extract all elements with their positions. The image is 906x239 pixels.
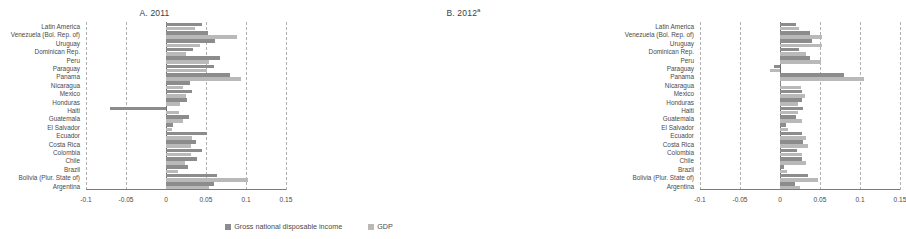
panel-a-title-text: A. 2011 bbox=[139, 8, 169, 18]
bar-gndi bbox=[166, 48, 193, 52]
bar-gndi bbox=[166, 132, 207, 136]
bar-gndi bbox=[780, 115, 796, 119]
x-tick-label: 0 bbox=[164, 196, 168, 203]
bar-gndi bbox=[166, 140, 196, 144]
panel-a-title: A. 2011 bbox=[0, 7, 309, 18]
bar-gndi bbox=[780, 56, 810, 60]
legend-swatch-gndi bbox=[225, 224, 231, 230]
panel-a-gridline-0p15 bbox=[286, 22, 287, 190]
bar-gndi bbox=[166, 31, 208, 35]
x-tick-label: -0.1 bbox=[694, 196, 705, 203]
legend-label-gndi: Gross national disposable income bbox=[234, 222, 342, 231]
bar-gndi bbox=[166, 123, 173, 127]
bar-gndi bbox=[166, 81, 190, 85]
bar-gndi bbox=[780, 39, 812, 43]
panel-a-bars bbox=[86, 22, 286, 190]
bar-gndi bbox=[166, 157, 197, 161]
bar-gndi bbox=[780, 140, 803, 144]
bar-group bbox=[86, 182, 286, 193]
bar-gndi bbox=[166, 73, 230, 77]
bar-gndi bbox=[780, 107, 803, 111]
x-tick-label: -0.05 bbox=[732, 196, 747, 203]
x-tick-label: 0 bbox=[778, 196, 782, 203]
x-tick-label: 0.1 bbox=[855, 196, 864, 203]
panel-b-baseline bbox=[700, 189, 900, 190]
panel-b-bars bbox=[700, 22, 900, 190]
bar-gndi bbox=[166, 56, 220, 60]
bar-gndi bbox=[774, 65, 780, 69]
panel-b-x-axis-ticks: -0.1-0.0500.050.10.15 bbox=[700, 196, 900, 208]
legend-swatch-gdp bbox=[368, 224, 374, 230]
bar-gndi bbox=[780, 157, 802, 161]
bar-gndi bbox=[166, 23, 202, 27]
bar-gndi bbox=[166, 98, 187, 102]
panel-a-baseline bbox=[86, 189, 286, 190]
bar-group bbox=[700, 182, 900, 193]
bar-gndi bbox=[166, 115, 189, 119]
bar-gndi bbox=[780, 31, 810, 35]
x-tick-label: -0.05 bbox=[118, 196, 133, 203]
bar-gndi bbox=[780, 73, 844, 77]
bar-gndi bbox=[166, 149, 202, 153]
x-tick-label: 0.05 bbox=[200, 196, 213, 203]
x-tick-label: -0.1 bbox=[80, 196, 91, 203]
bar-gndi bbox=[780, 81, 781, 85]
bar-gndi bbox=[166, 65, 214, 69]
chart-legend: Gross national disposable income GDP bbox=[0, 222, 618, 231]
bar-gndi bbox=[110, 107, 166, 111]
bar-gndi bbox=[166, 174, 217, 178]
bar-gndi bbox=[780, 149, 797, 153]
bar-gndi bbox=[780, 123, 786, 127]
legend-label-gdp: GDP bbox=[377, 222, 393, 231]
panel-b: B. 2012a Latin AmericaVenezuela (Bol. Re… bbox=[309, 0, 618, 218]
bar-gndi bbox=[166, 182, 214, 186]
panel-b-plot-area bbox=[700, 22, 900, 190]
panel-b-title-text: B. 2012 bbox=[446, 8, 477, 18]
panel-b-title-superscript: a bbox=[477, 7, 481, 13]
bar-gndi bbox=[780, 90, 802, 94]
panel-b-category-labels: Latin AmericaVenezuela (Bol. Rep. of)Uru… bbox=[614, 22, 698, 190]
panel-a-plot-area bbox=[86, 22, 286, 190]
panel-b-title: B. 2012a bbox=[309, 7, 618, 18]
panel-b-gridline-0p15 bbox=[900, 22, 901, 190]
bar-gndi bbox=[166, 165, 188, 169]
panel-a: A. 2011 Latin AmericaVenezuela (Bol. Rep… bbox=[0, 0, 309, 218]
x-tick-label: 0.15 bbox=[280, 196, 293, 203]
bar-gndi bbox=[780, 98, 802, 102]
bar-gndi bbox=[780, 165, 784, 169]
bar-gndi bbox=[166, 39, 215, 43]
bar-gndi bbox=[780, 23, 796, 27]
bar-gndi bbox=[780, 182, 795, 186]
bar-gndi bbox=[780, 174, 808, 178]
panel-a-x-axis-ticks: -0.1-0.0500.050.10.15 bbox=[86, 196, 286, 208]
bar-gndi bbox=[780, 132, 802, 136]
bar-gndi bbox=[780, 48, 799, 52]
panel-a-category-labels: Latin AmericaVenezuela (Bol. Rep. of)Uru… bbox=[0, 22, 84, 190]
bar-gndi bbox=[166, 90, 192, 94]
category-label: Argentina bbox=[53, 182, 80, 193]
x-tick-label: 0.05 bbox=[814, 196, 827, 203]
legend-item-gdp: GDP bbox=[368, 222, 393, 231]
x-tick-label: 0.1 bbox=[241, 196, 250, 203]
x-tick-label: 0.15 bbox=[894, 196, 906, 203]
legend-item-gndi: Gross national disposable income bbox=[225, 222, 342, 231]
category-label: Argentina bbox=[667, 182, 694, 193]
